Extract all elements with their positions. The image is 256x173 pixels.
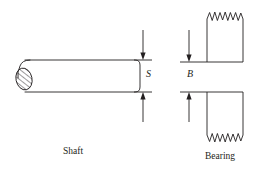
dimension-s-arrow-bottom-head (140, 92, 145, 100)
shaft-caption: Shaft (63, 147, 83, 157)
shaft-break-symbol (14, 67, 34, 92)
bearing-upper-group (207, 12, 243, 62)
dimension-b-group (180, 30, 207, 122)
dimension-s-arrow-top-head (140, 53, 145, 61)
dimension-b-arrow-top-head (186, 55, 191, 63)
bearing-lower-group (207, 92, 243, 142)
dimension-b-arrow-bottom-head (186, 92, 191, 100)
shaft-outline (25, 60, 140, 92)
figure-canvas: S B Shaft Bearing (0, 0, 256, 173)
bearing-lower-outline (207, 92, 243, 142)
shaft-group (14, 60, 140, 92)
dimension-s-label: S (146, 69, 151, 79)
diagram-svg (0, 0, 256, 173)
dimension-b-label: B (187, 69, 193, 79)
bearing-caption: Bearing (205, 152, 235, 162)
bearing-upper-outline (207, 12, 243, 62)
